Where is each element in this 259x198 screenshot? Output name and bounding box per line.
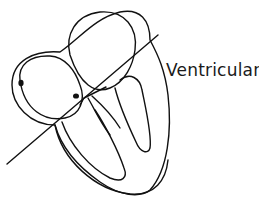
right-atrium: [69, 12, 136, 90]
ventricular-plane-line: [7, 35, 158, 164]
ventricular-label: Ventricular: [166, 60, 259, 80]
ventricle-wall: [55, 125, 168, 194]
right-ventricle: [115, 76, 150, 151]
sa-node-dot: [18, 80, 23, 86]
heart-drawing: [0, 0, 259, 198]
heart-diagram: Ventricular: [0, 0, 259, 198]
left-atrium: [20, 56, 83, 119]
av-node-dot: [73, 93, 79, 98]
